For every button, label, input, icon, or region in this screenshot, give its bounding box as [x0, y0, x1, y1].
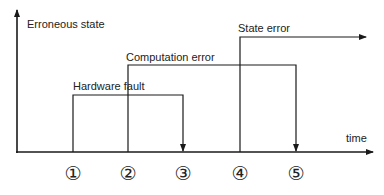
computation-error-label: Computation error — [126, 51, 215, 63]
state-error-label: State error — [238, 22, 290, 34]
marker-3: ③ — [173, 163, 193, 183]
computation-error-line — [128, 65, 296, 152]
marker-4: ④ — [230, 163, 250, 183]
x-axis-label: time — [346, 132, 367, 144]
y-axis-label: Erroneous state — [27, 18, 105, 30]
marker-5: ⑤ — [286, 163, 306, 183]
marker-2: ② — [118, 163, 138, 183]
marker-1: ① — [63, 163, 83, 183]
hardware-fault-label: Hardware fault — [73, 80, 145, 92]
error-propagation-diagram: Erroneous state time Hardware fault Comp… — [0, 0, 384, 195]
